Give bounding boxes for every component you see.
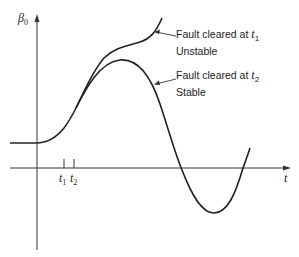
y-axis-label: β0 (18, 12, 28, 29)
annotation-arrow-stable-icon (154, 81, 160, 86)
x-axis-label: t (284, 172, 287, 184)
tick-t1-subscript: 1 (62, 178, 66, 187)
curve-initial-segment (10, 108, 76, 143)
annotation-unstable-subscript: 1 (255, 34, 259, 43)
y-axis-arrow-icon (35, 14, 40, 22)
annotation-stable-line2: Stable (176, 86, 259, 98)
curve-unstable (76, 18, 162, 108)
tick-t2-subscript: 2 (73, 178, 77, 187)
annotation-unstable-line1: Fault cleared at t1 (176, 28, 259, 45)
y-axis-subscript: 0 (24, 18, 28, 27)
annotation-unstable-text: Fault cleared at (176, 28, 251, 40)
tick-label-t1: t1 (59, 172, 66, 189)
x-axis-symbol: t (284, 171, 287, 185)
annotation-stable: Fault cleared at t2 Stable (176, 69, 259, 98)
annotation-stable-text: Fault cleared at (176, 69, 251, 81)
annotation-unstable-line2: Unstable (176, 45, 259, 57)
annotation-stable-line1: Fault cleared at t2 (176, 69, 259, 86)
annotation-stable-subscript: 2 (255, 75, 259, 84)
x-axis-arrow-icon (283, 166, 291, 171)
annotation-unstable: Fault cleared at t1 Unstable (176, 28, 259, 57)
tick-label-t2: t2 (70, 172, 77, 189)
